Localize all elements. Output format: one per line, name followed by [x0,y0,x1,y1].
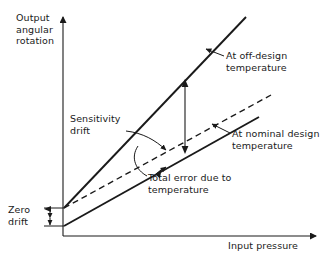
off-design-line2: temperature [226,62,287,73]
y-axis-label-line2: angular [16,24,53,35]
nominal-leader [212,124,230,133]
zero-drift-bracket [44,208,64,226]
leader-lines [126,49,230,179]
sensitivity-drift-leader [126,131,166,150]
off-design-temperature-label: At off-designtemperature [226,50,287,73]
nominal-line1: At nominal design [232,128,320,139]
y-axis-label: Outputangularrotation [16,12,54,47]
off-design-line1: At off-design [226,50,287,61]
sensor-drift-diagram: Outputangularrotation Input pressure Sen… [0,0,331,261]
nominal-line2: temperature [232,140,293,151]
total-error-line2: temperature [148,184,209,195]
x-axis-label: Input pressure [228,240,298,252]
zero-drift-label: Zerodrift [8,204,30,227]
total-error-line1: Total error due to [148,172,231,183]
sensitivity-drift-line1: Sensitivity [70,113,121,124]
sensitivity-drift-line2: drift [70,125,90,136]
y-axis-label-line3: rotation [16,35,54,46]
total-error-label: Total error due totemperature [148,172,231,195]
zero-drift-line1: Zero [8,204,30,215]
nominal-design-temperature-label: At nominal designtemperature [232,128,320,151]
x-axis-label-text: Input pressure [228,240,298,251]
y-axis-label-line1: Output [16,12,50,23]
total-error-leader [134,146,147,176]
total-error-arrowhead-bottom [182,146,189,154]
sensitivity-drift-label: Sensitivitydrift [70,113,121,136]
zero-drift-line2: drift [8,216,28,227]
